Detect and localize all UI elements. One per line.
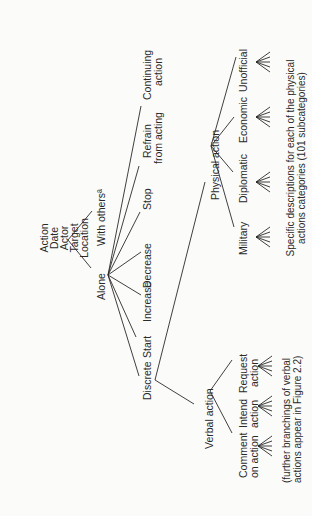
discrete-branches [155, 182, 205, 404]
node-discrete: Discrete [141, 361, 153, 400]
node-unofficial: Unofficial [237, 49, 249, 92]
node-with-others: With othersª [95, 189, 107, 246]
verbal-subcategory-fans [258, 356, 272, 456]
root-attributes: Action Date Actor Target Location [38, 218, 90, 258]
node-decrease: Decrease [141, 243, 153, 288]
action-taxonomy-diagram: Action Date Actor Target Location With o… [0, 0, 312, 516]
node-continuing-action: Continuing action [141, 50, 164, 100]
node-diplomatic: Diplomatic [237, 154, 249, 203]
svg-text:from acting: from acting [152, 112, 164, 164]
node-increase: Increase [141, 282, 153, 322]
node-comment-on-action: Comment on action [237, 432, 260, 478]
svg-text:action: action [248, 400, 260, 428]
physical-note: Specific descriptions for each of the ph… [285, 60, 307, 257]
verbal-note: (further branchings of verbal actions ap… [281, 356, 303, 483]
node-military: Military [237, 221, 249, 255]
svg-text:action: action [152, 58, 164, 86]
attr-location: Location [78, 218, 90, 258]
svg-text:action: action [248, 359, 260, 387]
node-intend-action: Intend action [237, 399, 260, 428]
node-economic: Economic [237, 97, 249, 143]
svg-text:on action: on action [248, 435, 260, 478]
svg-text:Specific descriptions for each: Specific descriptions for each of the ph… [285, 60, 296, 257]
svg-text:actions categories (101 subcat: actions categories (101 subcategories) [296, 72, 307, 244]
alone-branches [108, 106, 141, 376]
svg-text:(further branchings of verbal: (further branchings of verbal [281, 358, 292, 483]
node-refrain: Refrain from acting [141, 112, 164, 164]
node-alone: Alone [95, 273, 107, 300]
node-stop: Stop [141, 188, 153, 210]
physical-subcategory-fans [256, 52, 270, 247]
node-start: Start [141, 336, 153, 358]
node-request-action: Request action [237, 354, 260, 393]
svg-text:actions appear in Figure 2.2): actions appear in Figure 2.2) [292, 356, 303, 483]
